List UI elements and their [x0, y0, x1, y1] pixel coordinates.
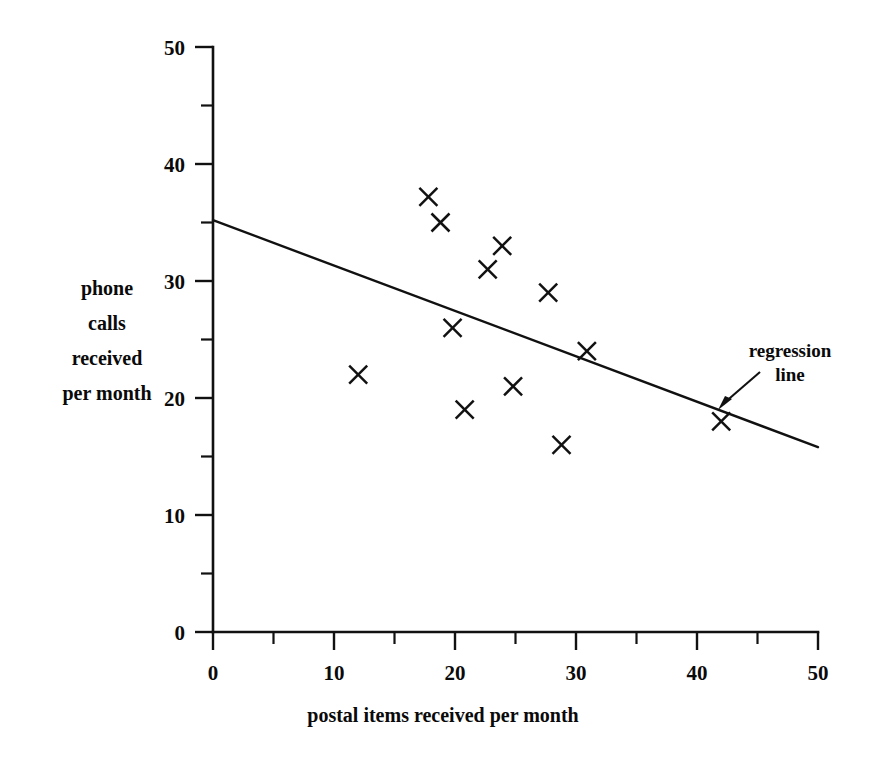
y-tick-label-10: 10 [164, 504, 185, 528]
data-point-marker [431, 214, 449, 232]
data-point-marker [456, 401, 474, 419]
regression-line-annotation: regression line [718, 340, 832, 410]
regression-line [213, 220, 818, 447]
scatter-plot-figure: 50 40 30 20 10 0 0 10 20 30 40 50 phone … [0, 0, 886, 765]
x-tick-label-0: 0 [208, 661, 219, 685]
x-tick-labels: 0 10 20 30 40 50 [208, 661, 829, 685]
data-point-marker [493, 237, 511, 255]
y-axis-title-line-4: per month [62, 382, 151, 405]
data-points-group [349, 188, 730, 454]
data-point-marker [444, 319, 462, 337]
x-tick-label-20: 20 [445, 661, 466, 685]
x-tick-label-40: 40 [687, 661, 708, 685]
x-tick-label-30: 30 [566, 661, 587, 685]
y-axis-title-line-3: received [72, 347, 143, 369]
y-tick-label-0: 0 [175, 621, 186, 645]
data-point-marker [419, 188, 437, 206]
y-axis [195, 47, 213, 632]
data-point-marker [539, 284, 557, 302]
y-axis-title-line-2: calls [88, 312, 126, 334]
annotation-text-line-2: line [775, 364, 805, 385]
data-point-marker [504, 377, 522, 395]
data-point-marker [712, 412, 730, 430]
annotation-text-line-1: regression [749, 340, 832, 361]
y-tick-label-20: 20 [164, 387, 185, 411]
x-axis-title: postal items received per month [307, 704, 578, 727]
x-axis [213, 632, 818, 650]
chart-canvas: 50 40 30 20 10 0 0 10 20 30 40 50 phone … [0, 0, 886, 765]
data-point-marker [479, 260, 497, 278]
y-tick-label-50: 50 [164, 36, 185, 60]
y-tick-label-40: 40 [164, 153, 185, 177]
y-axis-title: phone calls received per month [62, 277, 151, 405]
data-point-marker [578, 342, 596, 360]
data-point-marker [349, 366, 367, 384]
data-point-marker [552, 436, 570, 454]
y-tick-label-30: 30 [164, 270, 185, 294]
x-tick-label-50: 50 [808, 661, 829, 685]
y-axis-title-line-1: phone [81, 277, 133, 300]
y-tick-labels: 50 40 30 20 10 0 [164, 36, 185, 645]
x-tick-label-10: 10 [324, 661, 345, 685]
